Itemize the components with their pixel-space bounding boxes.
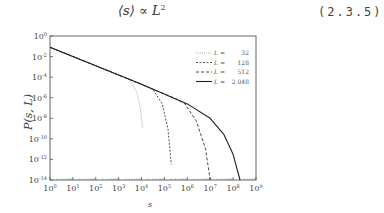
- x-axis-title: s: [148, 200, 152, 209]
- tick-label: 100: [43, 183, 56, 193]
- legend-label: L =: [213, 78, 225, 85]
- tick-label: 103: [112, 183, 125, 193]
- tick-label: 100: [34, 31, 47, 41]
- tick-label: 107: [204, 183, 217, 193]
- tick-label: 105: [158, 183, 171, 193]
- tick-label: 109: [249, 183, 262, 193]
- legend-value: 128: [238, 59, 250, 66]
- legend-label: L =: [213, 68, 225, 75]
- tick-label: 10-12: [29, 154, 47, 164]
- tick-label: 10-4: [32, 72, 47, 82]
- legend: L =32L =128L =512L =2 048: [196, 49, 249, 85]
- series-lines: [50, 47, 240, 180]
- tick-label: 104: [135, 183, 148, 193]
- series-line-0: [50, 47, 143, 128]
- series-line-1: [50, 47, 171, 164]
- y-axis-title: P(s, L): [22, 94, 35, 131]
- chart: 10010110210310410510610710810910010-210-…: [0, 0, 384, 213]
- plot-frame: [50, 36, 256, 180]
- tick-label: 10-10: [29, 134, 47, 144]
- tick-label: 108: [226, 183, 239, 193]
- tick-label: 101: [66, 183, 79, 193]
- legend-value: 2 048: [232, 78, 249, 85]
- legend-label: L =: [213, 49, 225, 56]
- tick-label: 106: [181, 183, 194, 193]
- legend-value: 32: [241, 49, 249, 56]
- series-line-3: [50, 47, 240, 180]
- tick-label: 102: [89, 183, 102, 193]
- legend-label: L =: [213, 59, 225, 66]
- axis-ticks: 10010110210310410510610710810910010-210-…: [29, 31, 263, 193]
- tick-label: 10-2: [32, 52, 47, 62]
- series-line-2: [50, 47, 210, 180]
- legend-value: 512: [238, 68, 250, 75]
